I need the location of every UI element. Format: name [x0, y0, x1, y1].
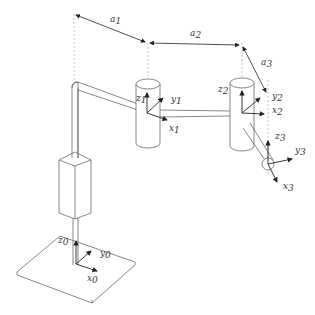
label-y1: y1	[170, 94, 182, 106]
label-x2: x2	[272, 105, 283, 117]
label-z2: z2	[217, 84, 229, 96]
label-a1: a1	[110, 14, 121, 26]
label-y3: y3	[294, 145, 306, 157]
label-a2: a2	[190, 28, 201, 40]
label-a3: a3	[261, 57, 272, 69]
joint-2-cylinder	[230, 78, 254, 151]
label-y2: y2	[271, 91, 283, 103]
link-2	[160, 110, 230, 117]
column	[59, 82, 138, 265]
robot-arm-diagram: a1 a2 a3	[0, 0, 315, 315]
label-x3: x3	[283, 181, 294, 193]
label-z3: z3	[274, 131, 286, 143]
label-x1: x1	[169, 123, 180, 135]
